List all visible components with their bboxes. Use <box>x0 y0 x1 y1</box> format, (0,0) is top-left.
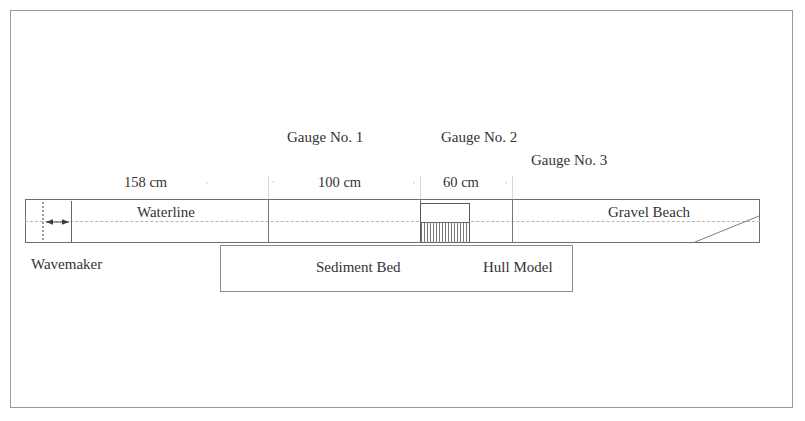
scan-speck <box>413 182 415 184</box>
gauge-3-label: Gauge No. 3 <box>531 153 607 168</box>
hull-model-label: Hull Model <box>483 260 553 275</box>
gauge-3-station-line <box>512 199 513 243</box>
scan-speck <box>206 182 208 184</box>
waterline-label: Waterline <box>137 205 195 220</box>
gauge-1-label: Gauge No. 1 <box>287 130 363 145</box>
gauge-1-station-line <box>268 199 269 243</box>
station-tick-gauge-2 <box>420 176 421 199</box>
figure-canvas: Gauge No. 1 Gauge No. 2 Gauge No. 3 158 … <box>0 0 805 421</box>
wavemaker-stroke-arrow-icon <box>44 218 71 226</box>
gravel-beach-label: Gravel Beach <box>608 205 690 220</box>
wavemaker-label: Wavemaker <box>31 257 102 272</box>
dimension-158cm-label: 158 cm <box>124 175 167 190</box>
station-tick-gauge-3 <box>512 176 513 199</box>
scan-speck <box>272 181 274 183</box>
dimension-60cm-label: 60 cm <box>443 175 479 190</box>
dimension-100cm-label: 100 cm <box>318 175 361 190</box>
wavemaker-paddle-plate <box>71 201 72 242</box>
scan-speck <box>505 182 507 184</box>
gauge-2-label: Gauge No. 2 <box>441 130 517 145</box>
station-tick-gauge-1 <box>268 176 269 199</box>
gravel-beach-slope-line <box>694 210 760 243</box>
waterline-level-line <box>25 221 760 222</box>
sediment-bed-label: Sediment Bed <box>316 260 401 275</box>
hull-model-draft-hatching <box>421 222 469 243</box>
